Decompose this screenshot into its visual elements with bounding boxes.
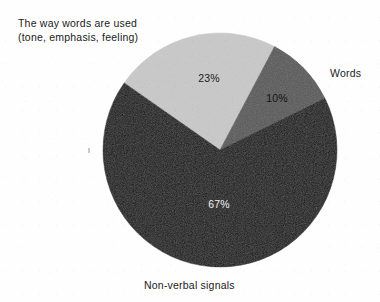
pie-callout-words: Words: [330, 67, 361, 81]
pie-value-label-words: 10%: [266, 92, 288, 104]
pie-value-label-nonverbal: 67%: [208, 198, 230, 210]
pie-chart: 23% 10% 67%: [0, 0, 380, 302]
figure-canvas: 23% 10% 67% The way words are used (tone…: [0, 0, 380, 302]
scan-artifact-speck: [88, 148, 90, 153]
pie-value-label-words-used: 23%: [198, 72, 220, 84]
pie-callout-words-used: The way words are used (tone, emphasis, …: [18, 17, 138, 44]
pie-slices: [103, 33, 337, 267]
pie-callout-nonverbal: Non-verbal signals: [144, 279, 235, 293]
